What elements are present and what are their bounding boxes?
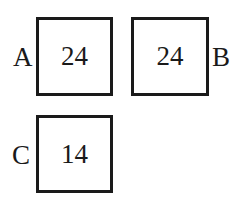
box-a-value: 24	[61, 43, 88, 70]
box-c-label: C	[12, 142, 30, 169]
box-b-label: B	[212, 44, 230, 71]
box-a-label: A	[13, 44, 33, 71]
box-b-value: 24	[157, 43, 184, 70]
box-b: 24	[131, 17, 209, 96]
box-c-value: 14	[61, 141, 88, 168]
box-c: 14	[36, 115, 113, 193]
box-a: 24	[36, 17, 113, 96]
